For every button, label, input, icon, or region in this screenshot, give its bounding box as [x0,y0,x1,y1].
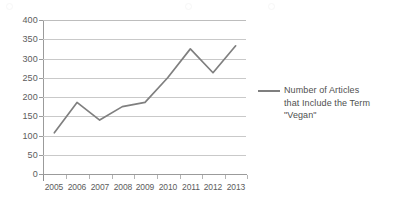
series-line-number-of-articles [54,46,235,133]
line-swatch-icon [258,87,280,96]
legend-entry-label: Number of Articles that Include the Term… [284,84,370,122]
chart-legend: Number of Articles that Include the Term… [258,84,388,122]
line-chart-figure: 400 350 300 250 200 150 100 50 0 2005 20… [0,0,393,199]
